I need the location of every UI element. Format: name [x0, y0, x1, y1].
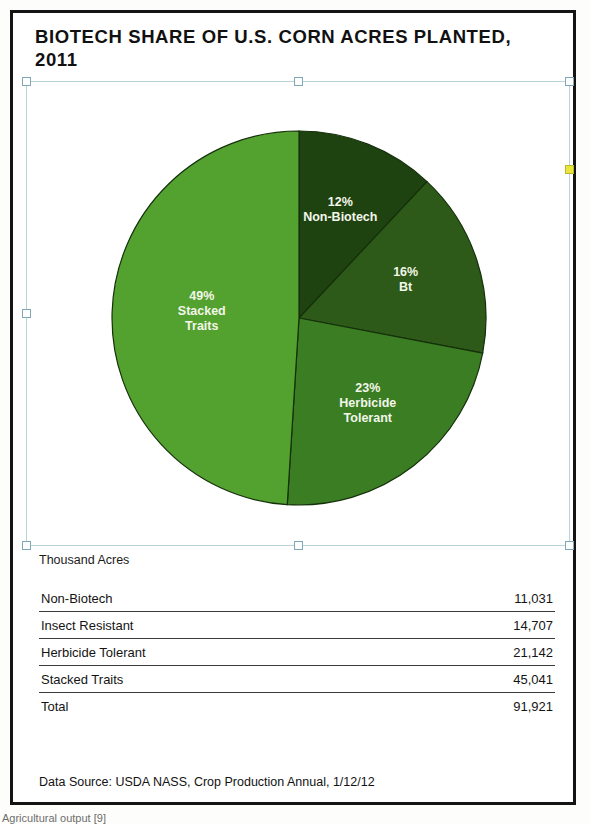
handle-bottom-right[interactable] [565, 541, 574, 550]
table-cell-value: 45,041 [407, 666, 555, 693]
table-cell-value: 21,142 [407, 639, 555, 666]
figure-frame: BIOTECH SHARE OF U.S. CORN ACRES PLANTED… [10, 10, 576, 805]
table-cell-value: 11,031 [407, 585, 555, 612]
table-cell-label: Insect Resistant [39, 612, 407, 639]
table-cell-label: Total [39, 693, 407, 720]
handle-bottom-left[interactable] [22, 541, 31, 550]
page-title: BIOTECH SHARE OF U.S. CORN ACRES PLANTED… [35, 25, 545, 71]
table-cell-value: 14,707 [407, 612, 555, 639]
page-footer-text: Agricultural output [9] [2, 812, 106, 824]
handle-top-left[interactable] [22, 77, 31, 86]
handle-bottom-center[interactable] [294, 541, 303, 550]
handle-middle-right[interactable] [565, 165, 574, 174]
pie-slice-group [112, 131, 486, 505]
source-note: Data Source: USDA NASS, Crop Production … [39, 775, 375, 789]
data-table: Non-Biotech11,031Insect Resistant14,707H… [39, 585, 555, 719]
table-row: Stacked Traits45,041 [39, 666, 555, 693]
table-row: Herbicide Tolerant21,142 [39, 639, 555, 666]
handle-middle-left[interactable] [22, 309, 31, 318]
table-row: Insect Resistant14,707 [39, 612, 555, 639]
table-caption: Thousand Acres [39, 553, 129, 567]
scanned-page: BIOTECH SHARE OF U.S. CORN ACRES PLANTED… [0, 0, 590, 824]
data-table-body: Non-Biotech11,031Insect Resistant14,707H… [39, 585, 555, 719]
table-row: Total91,921 [39, 693, 555, 720]
pie-chart[interactable]: 12%Non-Biotech16%Bt23%HerbicideTolerant4… [109, 98, 489, 538]
table-cell-label: Stacked Traits [39, 666, 407, 693]
table-cell-label: Herbicide Tolerant [39, 639, 407, 666]
table-cell-value: 91,921 [407, 693, 555, 720]
handle-top-right[interactable] [565, 77, 574, 86]
table-row: Non-Biotech11,031 [39, 585, 555, 612]
handle-top-center[interactable] [294, 77, 303, 86]
table-cell-label: Non-Biotech [39, 585, 407, 612]
pie-chart-svg: 12%Non-Biotech16%Bt23%HerbicideTolerant4… [109, 98, 489, 538]
